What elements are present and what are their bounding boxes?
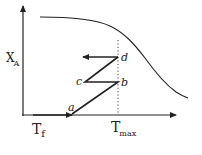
tmax-label: Tmax [111,119,137,138]
point-c-label: c [76,75,82,88]
point-d-label: d [121,51,128,64]
point-b-label: b [121,76,128,89]
y-axis-label: XA [6,51,20,68]
tf-label: Tf [32,121,46,139]
point-a-label: a [68,101,75,114]
diagram-canvas: XA Tf Tmax a b c d [0,0,202,155]
